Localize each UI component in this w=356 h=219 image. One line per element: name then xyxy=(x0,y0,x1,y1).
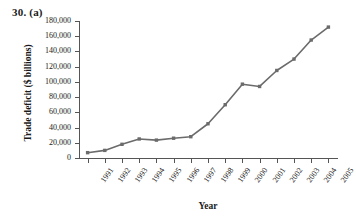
data-point-markers xyxy=(86,25,330,154)
data-point-marker xyxy=(155,138,158,141)
data-point-marker xyxy=(120,143,123,146)
data-point-marker xyxy=(138,137,141,140)
data-point-marker xyxy=(189,135,192,138)
data-point-marker xyxy=(172,137,175,140)
data-point-marker xyxy=(275,69,278,72)
data-point-marker xyxy=(241,82,244,85)
data-point-marker xyxy=(206,122,209,125)
data-point-marker xyxy=(292,57,295,60)
trade-deficit-line xyxy=(88,27,329,153)
data-point-marker xyxy=(103,149,106,152)
data-point-marker xyxy=(86,151,89,154)
data-point-marker xyxy=(258,85,261,88)
data-point-marker xyxy=(310,38,313,41)
data-point-marker xyxy=(327,25,330,28)
data-point-marker xyxy=(224,103,227,106)
